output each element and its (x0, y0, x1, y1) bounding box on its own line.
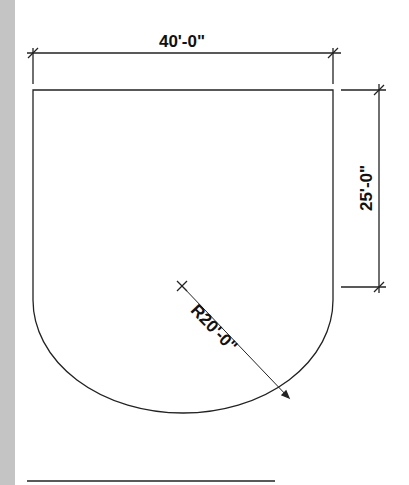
floor-plan-drawing: 40'-0" 25'-0" R20'-0" (0, 0, 409, 485)
shape-outline (33, 90, 333, 413)
radius-label: R20'-0" (187, 301, 241, 356)
height-label: 25'-0" (357, 165, 376, 211)
width-label: 40'-0" (159, 32, 205, 51)
